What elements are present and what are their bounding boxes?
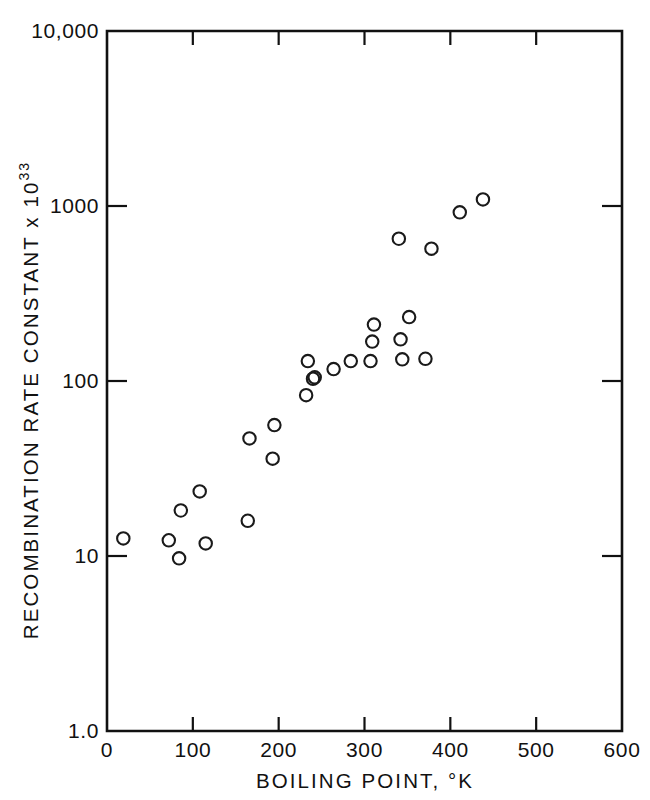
data-point [175, 504, 187, 516]
x-tick-label-300: 300 [346, 738, 383, 761]
data-point [394, 333, 406, 345]
data-point [368, 318, 380, 330]
data-point [163, 534, 175, 546]
data-point [327, 363, 339, 375]
data-point [419, 353, 431, 365]
data-point [242, 515, 254, 527]
x-tick-label-0: 0 [101, 738, 113, 761]
data-point [403, 311, 415, 323]
y-tick-label-10: 10 [74, 544, 99, 567]
y-tick-label-100: 100 [62, 369, 99, 392]
data-point [477, 193, 489, 205]
data-point [366, 335, 378, 347]
data-point [200, 537, 212, 549]
data-point [266, 452, 278, 464]
x-tick-label-200: 200 [260, 738, 297, 761]
x-tick-label-100: 100 [174, 738, 211, 761]
y-axis-title: RECOMBINATION RATE CONSTANT x 1033 [16, 161, 42, 639]
y-axis-ticks [107, 206, 622, 556]
data-point [364, 355, 376, 367]
data-point [243, 432, 255, 444]
x-tick-label-500: 500 [518, 738, 555, 761]
data-point [345, 355, 357, 367]
data-point [117, 532, 129, 544]
data-point [194, 485, 206, 497]
data-point [425, 243, 437, 255]
data-point [300, 389, 312, 401]
data-point-group [117, 193, 489, 564]
y-tick-label-1: 1.0 [68, 719, 99, 742]
data-point [268, 419, 280, 431]
data-point [302, 355, 314, 367]
x-axis-title: BOILING POINT, °K [256, 769, 474, 792]
x-tick-label-400: 400 [432, 738, 469, 761]
scatter-plot: 0100200300400500600 1.010100100010,000 B… [0, 0, 650, 800]
x-axis-tick-labels: 0100200300400500600 [101, 738, 641, 761]
y-tick-label-10000: 10,000 [31, 19, 99, 42]
y-tick-label-1000: 1000 [50, 194, 99, 217]
plot-frame [107, 31, 622, 731]
data-point [396, 353, 408, 365]
chart-figure: 0100200300400500600 1.010100100010,000 B… [0, 0, 650, 800]
x-axis-ticks [193, 31, 536, 731]
data-point [393, 233, 405, 245]
data-point [173, 552, 185, 564]
x-tick-label-600: 600 [604, 738, 641, 761]
data-point [454, 206, 466, 218]
y-axis-title-text: RECOMBINATION RATE CONSTANT x 10 [19, 181, 42, 640]
y-axis-title-exponent: 33 [16, 161, 32, 181]
